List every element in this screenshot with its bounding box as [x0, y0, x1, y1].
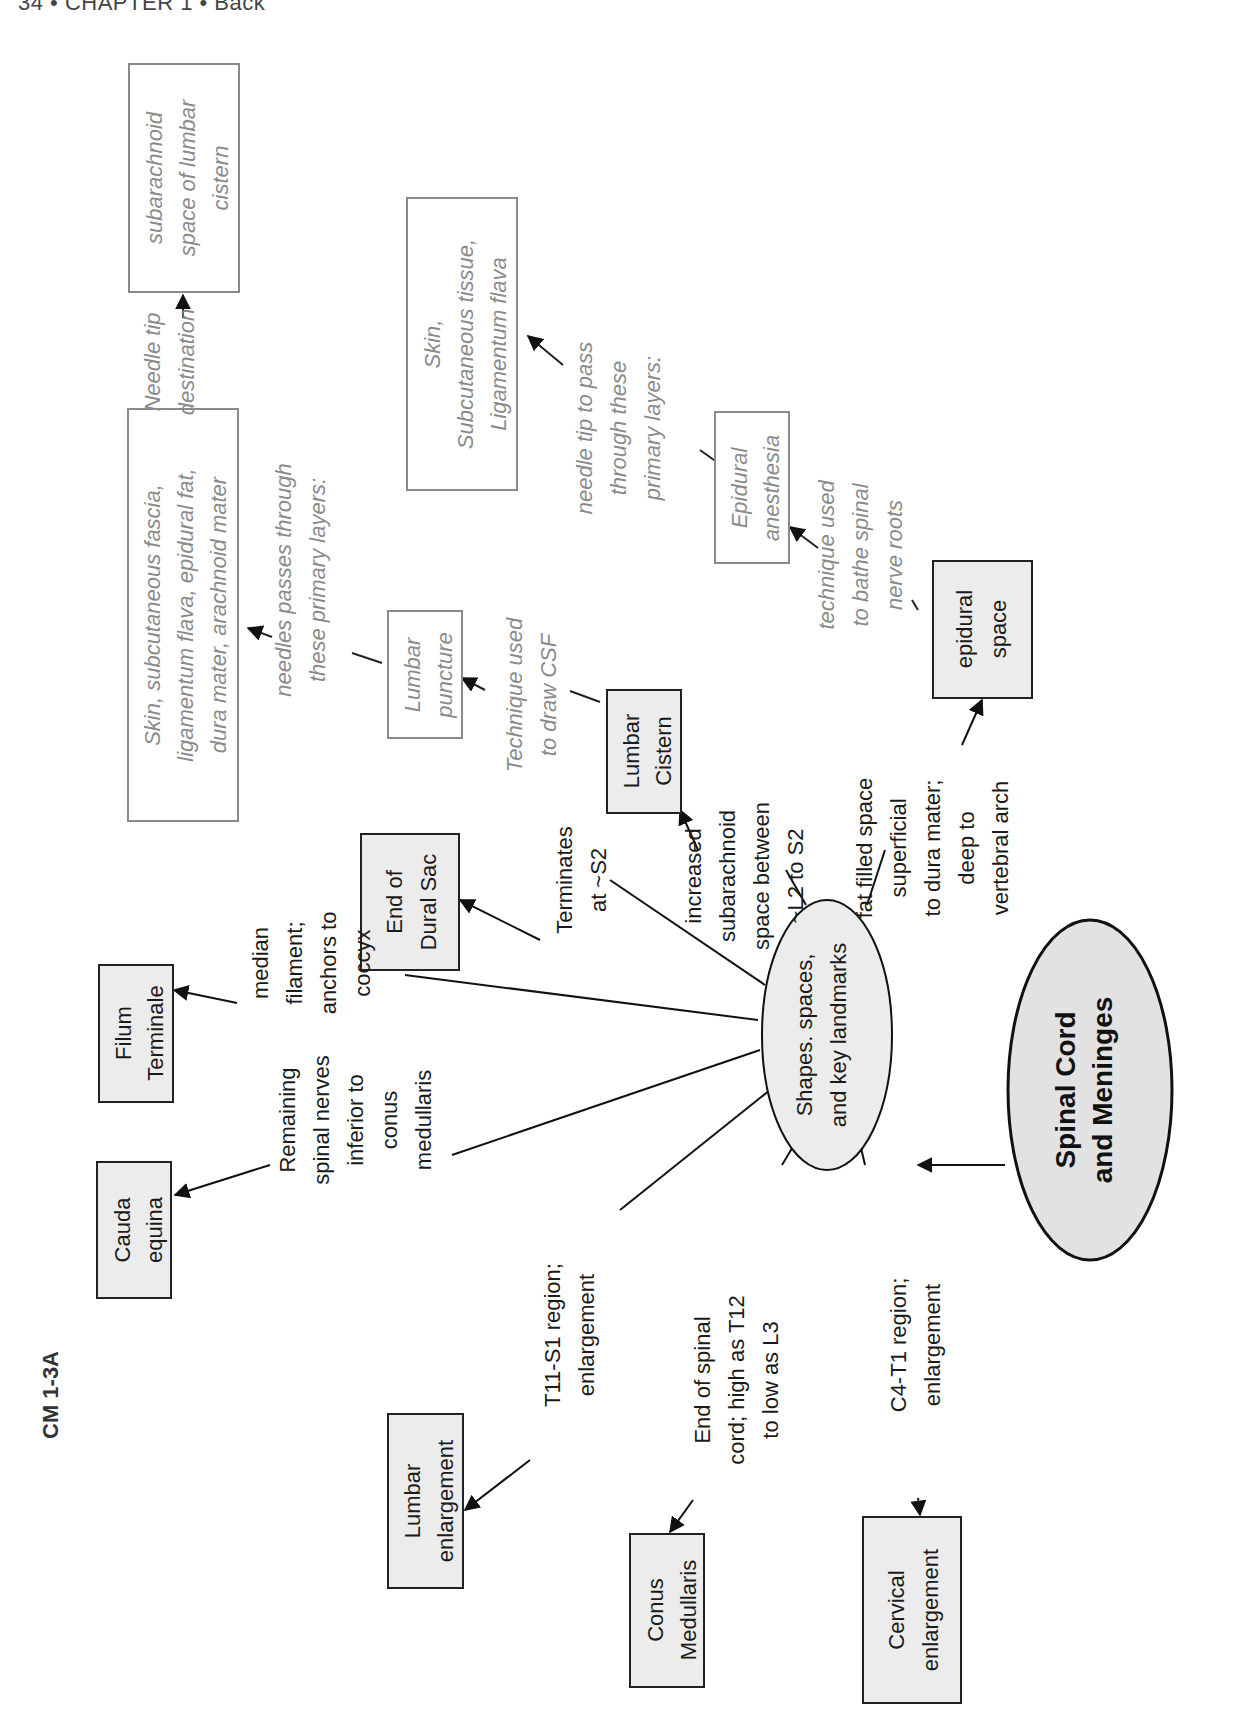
svg-text:subarachnoid: subarachnoid	[142, 111, 167, 244]
svg-text:these primary layers:: these primary layers:	[305, 478, 330, 682]
concept-map: CM 1-3A Spinal Cord and Meninges Shapes.…	[0, 0, 1244, 1732]
svg-text:equina: equina	[142, 1196, 167, 1263]
svg-text:filament;: filament;	[282, 921, 307, 1004]
arrow-conus	[670, 1500, 693, 1532]
svg-text:Filum: Filum	[111, 1006, 136, 1060]
svg-text:technique used: technique used	[814, 480, 839, 630]
svg-text:Skin,: Skin,	[420, 320, 445, 369]
svg-text:enlargement: enlargement	[574, 1274, 599, 1396]
svg-text:C4-T1 region;: C4-T1 region;	[886, 1278, 911, 1413]
svg-text:epidural: epidural	[952, 590, 977, 668]
svg-text:nerve roots: nerve roots	[882, 500, 907, 610]
link-label-lumbar-puncture: Technique used to draw CSF	[502, 617, 561, 772]
link-label-cervical: C4-T1 region; enlargement	[886, 1278, 945, 1413]
hub-label-line1: Shapes. spaces,	[792, 954, 817, 1117]
link-label-lp-layers: needles passes through these primary lay…	[271, 463, 330, 697]
svg-text:Needle tip: Needle tip	[140, 312, 165, 411]
svg-text:Cistern: Cistern	[651, 716, 676, 786]
figure-label: CM 1-3A	[38, 1351, 63, 1439]
link-label-cauda: Remaining spinal nerves inferior to conu…	[275, 1055, 436, 1185]
svg-text:needles passes through: needles passes through	[271, 463, 296, 697]
svg-text:needle tip to pass: needle tip to pass	[572, 342, 597, 514]
link-label-lp-destination: Needle tip destination	[140, 309, 199, 415]
svg-text:cistern: cistern	[208, 146, 233, 211]
svg-text:to dura mater;: to dura mater;	[920, 780, 945, 917]
svg-text:anchors to: anchors to	[316, 912, 341, 1015]
root-label-line2: and Meninges	[1087, 997, 1118, 1184]
node-conus-medullaris[interactable]: Conus Medullaris	[630, 1534, 704, 1687]
svg-text:puncture: puncture	[432, 632, 457, 719]
svg-text:inferior to: inferior to	[343, 1074, 368, 1166]
node-filum-terminale[interactable]: Filum Terminale	[99, 965, 173, 1102]
link-label-conus: End of spinal cord; high as T12 to low a…	[690, 1295, 783, 1465]
arrow-lp-layers	[248, 628, 272, 637]
arrow-epidural	[962, 700, 982, 745]
arrow-ea-layers	[528, 336, 563, 365]
svg-text:to draw CSF: to draw CSF	[536, 632, 561, 756]
arrow-filum	[174, 990, 237, 1003]
node-end-of-dural-sac[interactable]: End of Dural Sac	[361, 834, 459, 970]
arrow-lumbar-enl	[465, 1460, 530, 1510]
svg-text:subarachnoid: subarachnoid	[715, 810, 740, 942]
svg-text:Epidural: Epidural	[727, 447, 752, 529]
node-ea-layers[interactable]: Skin, Subcutaneous tissue, Ligamentum fl…	[407, 198, 517, 490]
svg-text:Skin, subcutaneous fascia,: Skin, subcutaneous fascia,	[140, 484, 165, 746]
svg-text:End of spinal: End of spinal	[690, 1316, 715, 1443]
node-lumbar-cistern[interactable]: Lumbar Cistern	[607, 690, 681, 813]
node-cauda-equina[interactable]: Cauda equina	[97, 1162, 171, 1298]
svg-text:to bathe spinal: to bathe spinal	[848, 482, 873, 626]
svg-text:deep to: deep to	[954, 811, 979, 884]
svg-text:anesthesia: anesthesia	[759, 435, 784, 541]
svg-text:T11-S1 region;: T11-S1 region;	[540, 1263, 565, 1407]
svg-text:Lumbar: Lumbar	[400, 1464, 425, 1539]
svg-text:cord; high as T12: cord; high as T12	[724, 1295, 749, 1465]
arrow-dural	[460, 900, 540, 940]
svg-text:primary layers:: primary layers:	[640, 356, 665, 501]
svg-text:destination: destination	[174, 309, 199, 415]
svg-text:Remaining: Remaining	[275, 1067, 300, 1172]
svg-text:vertebral arch: vertebral arch	[988, 781, 1013, 916]
hub-label-line2: and key landmarks	[826, 943, 851, 1128]
svg-text:medullaris: medullaris	[411, 1070, 436, 1170]
svg-text:space between: space between	[749, 802, 774, 950]
svg-text:Terminale: Terminale	[143, 985, 168, 1080]
line-lp-to-layers-label	[352, 653, 382, 663]
link-label-ea-layers: needle tip to pass through these primary…	[572, 342, 665, 514]
hub-node[interactable]: Shapes. spaces, and key landmarks	[762, 900, 892, 1170]
hub-line-lumbar-enl	[620, 1090, 770, 1210]
link-label-filum: median filament; anchors to coccyx	[248, 912, 375, 1015]
node-cervical-enlargement[interactable]: Cervical enlargement	[863, 1517, 961, 1703]
node-epidural-space[interactable]: epidural space	[933, 561, 1032, 698]
svg-text:enlargement: enlargement	[433, 1440, 458, 1562]
arrow-cauda	[175, 1165, 270, 1195]
svg-text:spinal nerves: spinal nerves	[309, 1055, 334, 1185]
svg-text:Cauda: Cauda	[110, 1197, 135, 1263]
svg-text:Medullaris: Medullaris	[676, 1560, 701, 1660]
svg-text:increased: increased	[681, 828, 706, 923]
link-label-epidural: fat filled space superficial to dura mat…	[852, 778, 1013, 919]
svg-text:Subcutaneous tissue,: Subcutaneous tissue,	[453, 239, 478, 449]
svg-text:space of lumbar: space of lumbar	[175, 98, 200, 256]
svg-text:fat filled space: fat filled space	[852, 778, 877, 919]
svg-text:to low as L3: to low as L3	[758, 1321, 783, 1438]
node-epidural-anesthesia[interactable]: Epidural anesthesia	[715, 412, 789, 563]
arrow-cervical	[918, 1498, 920, 1515]
hub-line-cauda	[452, 1050, 760, 1155]
svg-text:enlargement: enlargement	[918, 1549, 943, 1671]
svg-text:Conus: Conus	[643, 1578, 668, 1642]
svg-text:dura mater, arachnoid mater: dura mater, arachnoid mater	[206, 475, 231, 753]
svg-text:~L2 to S2: ~L2 to S2	[783, 829, 808, 924]
line-epidural-to-technique	[912, 600, 918, 610]
link-label-epidural-anesthesia: technique used to bathe spinal nerve roo…	[814, 480, 907, 630]
svg-text:Technique used: Technique used	[502, 617, 527, 772]
node-lp-destination[interactable]: subarachnoid space of lumbar cistern	[129, 64, 239, 292]
node-lumbar-enlargement[interactable]: Lumbar enlargement	[388, 1414, 463, 1588]
link-label-dural: Terminates at ~S2	[552, 826, 611, 934]
svg-text:superficial: superficial	[886, 798, 911, 897]
node-lumbar-puncture[interactable]: Lumbar puncture	[388, 611, 462, 738]
node-lp-layers[interactable]: Skin, subcutaneous fascia, ligamentum fl…	[128, 409, 238, 821]
svg-text:Terminates: Terminates	[552, 826, 577, 934]
root-node[interactable]: Spinal Cord and Meninges	[1008, 920, 1172, 1260]
svg-text:Ligamentum flava: Ligamentum flava	[486, 257, 511, 431]
svg-text:space: space	[986, 600, 1011, 659]
